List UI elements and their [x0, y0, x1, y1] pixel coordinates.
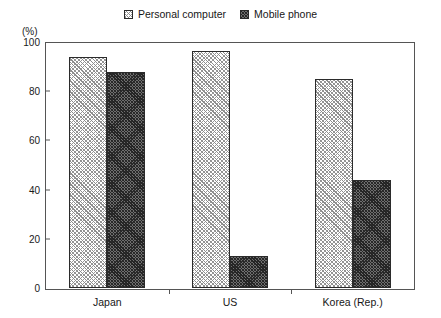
x-tick-mark — [291, 289, 292, 294]
bar-mobile-phone — [230, 256, 268, 288]
y-tick-label: 60 — [29, 135, 40, 146]
bar-group — [315, 42, 391, 288]
x-category-label: Japan — [93, 296, 122, 308]
bar-group — [69, 42, 145, 288]
legend-entry-mobile-phone: Mobile phone — [240, 8, 317, 20]
bars-layer — [46, 42, 413, 288]
legend-swatch-personal-computer-icon — [124, 10, 133, 19]
x-category-label: US — [223, 296, 238, 308]
y-tick-mark — [45, 189, 50, 190]
y-tick-mark — [45, 91, 50, 92]
y-tick-label: 80 — [29, 86, 40, 97]
y-tick-label: 0 — [34, 283, 40, 294]
legend-entry-personal-computer: Personal computer — [124, 8, 226, 20]
bar-mobile-phone — [353, 180, 391, 288]
y-tick-label: 100 — [23, 37, 40, 48]
chart-legend: Personal computer Mobile phone — [0, 8, 441, 20]
y-tick-label: 20 — [29, 233, 40, 244]
x-tick-mark — [169, 289, 170, 294]
bar-personal-computer — [192, 51, 230, 288]
bar-mobile-phone — [107, 72, 145, 288]
legend-label-personal-computer: Personal computer — [138, 8, 226, 20]
bar-chart: Personal computer Mobile phone (%) 02040… — [0, 0, 441, 318]
y-tick-mark — [45, 140, 50, 141]
bar-group — [192, 42, 268, 288]
x-category-label: Korea (Rep.) — [323, 296, 383, 308]
legend-label-mobile-phone: Mobile phone — [254, 8, 317, 20]
bar-personal-computer — [315, 79, 353, 288]
y-tick-mark — [45, 238, 50, 239]
bar-personal-computer — [69, 57, 107, 288]
legend-swatch-mobile-phone-icon — [240, 10, 249, 19]
y-tick-label: 40 — [29, 184, 40, 195]
y-axis: 020406080100 — [0, 0, 40, 318]
